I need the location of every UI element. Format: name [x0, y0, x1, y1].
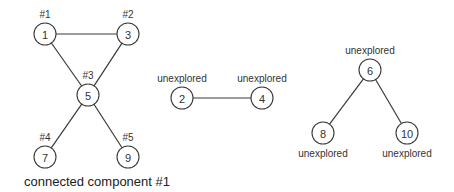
node-2: 2unexplored [157, 73, 206, 109]
node-label: #3 [82, 70, 94, 81]
node-label: unexplored [157, 73, 206, 84]
node-id-text: 10 [401, 128, 413, 140]
node-id-text: 5 [85, 90, 91, 102]
node-id-text: 3 [125, 29, 131, 41]
node-label: unexplored [382, 148, 431, 159]
node-id-text: 4 [259, 93, 265, 105]
node-id-text: 9 [125, 152, 131, 164]
node-6: 6unexplored [345, 45, 394, 81]
edge-5-9 [94, 104, 122, 148]
edge-6-10 [376, 79, 402, 123]
edge-3-5 [94, 43, 122, 86]
node-label: unexplored [298, 148, 347, 159]
node-id-text: 7 [42, 152, 48, 164]
edge-6-8 [330, 79, 364, 124]
graph-diagram: 1#13#25#37#49#52unexplored4unexplored6un… [0, 0, 454, 192]
nodes-layer: 1#13#25#37#49#52unexplored4unexplored6un… [34, 9, 432, 168]
node-id-text: 6 [367, 65, 373, 77]
node-id-text: 2 [179, 93, 185, 105]
node-label: #1 [39, 9, 51, 20]
node-10: 10unexplored [382, 122, 431, 159]
node-label: #2 [122, 9, 134, 20]
component-caption: connected component #1 [24, 174, 170, 189]
edge-5-7 [51, 104, 81, 148]
node-label: unexplored [345, 45, 394, 56]
node-4: 4unexplored [237, 73, 286, 109]
node-label: #4 [39, 132, 51, 143]
node-5: 5#3 [77, 70, 99, 106]
node-label: unexplored [237, 73, 286, 84]
node-1: 1#1 [34, 9, 56, 45]
node-8: 8unexplored [298, 122, 347, 159]
node-9: 9#5 [117, 132, 139, 168]
edge-1-5 [51, 43, 81, 86]
node-7: 7#4 [34, 132, 56, 168]
graph-svg: 1#13#25#37#49#52unexplored4unexplored6un… [0, 0, 454, 192]
node-id-text: 1 [42, 29, 48, 41]
node-id-text: 8 [320, 128, 326, 140]
node-label: #5 [122, 132, 134, 143]
node-3: 3#2 [117, 9, 139, 45]
